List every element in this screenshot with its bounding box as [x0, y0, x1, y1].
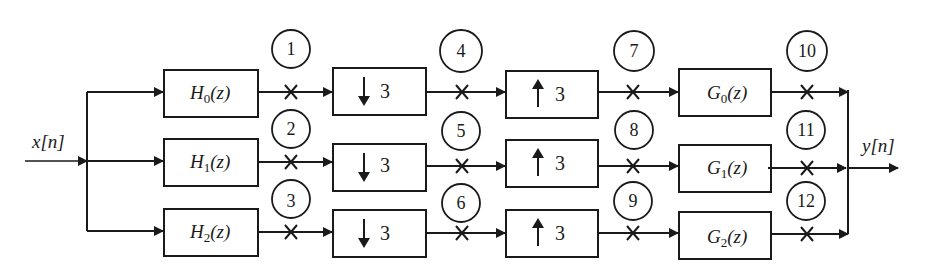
probe-point-8: 8: [615, 111, 653, 149]
output-summation: y[n]: [848, 90, 898, 234]
downsampler-1: 3: [333, 144, 426, 191]
probe-point-11: 11: [787, 111, 825, 149]
probe-point-10: 10: [787, 31, 827, 71]
filter-bank-diagram: x[n] H0(z) H1(z) H2(z) 3 3: [0, 0, 929, 271]
svg-text:3: 3: [555, 152, 565, 174]
probe-point-4: 4: [440, 30, 482, 72]
probe-point-7: 7: [614, 31, 654, 71]
svg-text:3: 3: [555, 222, 565, 244]
svg-text:11: 11: [797, 120, 814, 140]
downsampler-0: 3: [333, 68, 426, 115]
upsampler-0: 3: [506, 71, 598, 118]
svg-text:12: 12: [797, 191, 815, 211]
svg-text:8: 8: [630, 120, 639, 140]
analysis-filter-h0: H0(z): [164, 70, 258, 117]
upsampler-2: 3: [506, 210, 598, 257]
synthesis-filter-g0: G0(z): [679, 69, 771, 116]
svg-text:3: 3: [287, 191, 296, 211]
svg-text:3: 3: [380, 154, 390, 176]
output-label: y[n]: [860, 135, 895, 156]
synthesis-filter-g1: G1(z): [679, 145, 771, 192]
analysis-filter-h2: H2(z): [164, 209, 258, 256]
svg-text:3: 3: [380, 222, 390, 244]
upsampler-1: 3: [506, 140, 598, 187]
probe-point-5: 5: [442, 112, 480, 150]
input-signal: x[n]: [25, 131, 87, 161]
svg-text:G2(z): G2(z): [707, 226, 747, 250]
svg-text:7: 7: [630, 41, 639, 61]
svg-text:3: 3: [555, 83, 565, 105]
svg-text:9: 9: [629, 191, 638, 211]
probe-point-9: 9: [614, 182, 652, 220]
svg-text:H0(z): H0(z): [189, 82, 230, 106]
probe-point-12: 12: [787, 182, 825, 220]
probe-point-3: 3: [272, 180, 310, 218]
svg-text:2: 2: [287, 119, 296, 139]
probe-point-1: 1: [272, 30, 310, 68]
svg-text:G0(z): G0(z): [707, 82, 747, 106]
svg-text:G1(z): G1(z): [707, 157, 747, 181]
probe-point-6: 6: [442, 184, 480, 222]
input-label: x[n]: [31, 131, 65, 152]
svg-text:4: 4: [457, 41, 466, 61]
synthesis-filter-g2: G2(z): [679, 212, 771, 259]
svg-text:1: 1: [287, 39, 296, 59]
svg-text:3: 3: [380, 80, 390, 102]
svg-text:6: 6: [457, 193, 466, 213]
svg-text:10: 10: [798, 41, 816, 61]
svg-text:H2(z): H2(z): [189, 221, 230, 245]
input-split-bus: [87, 92, 163, 231]
svg-text:5: 5: [457, 121, 466, 141]
probe-point-2: 2: [272, 110, 310, 148]
svg-text:H1(z): H1(z): [189, 151, 230, 175]
downsampler-2: 3: [333, 210, 426, 257]
analysis-filter-h1: H1(z): [164, 139, 258, 186]
